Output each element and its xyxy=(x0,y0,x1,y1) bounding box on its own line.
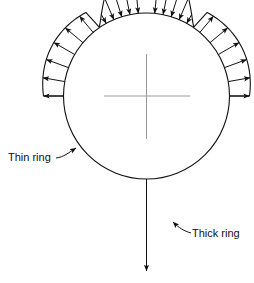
annotation-leaders xyxy=(56,148,191,233)
centerline-marks xyxy=(104,54,190,139)
thick-ring-label: Thick ring xyxy=(192,227,240,239)
thin-ring-label: Thin ring xyxy=(8,151,51,163)
pressure-distribution-figure: Thin ring Thick ring xyxy=(0,0,254,283)
figure-canvas: Thin ring Thick ring xyxy=(0,0,254,283)
